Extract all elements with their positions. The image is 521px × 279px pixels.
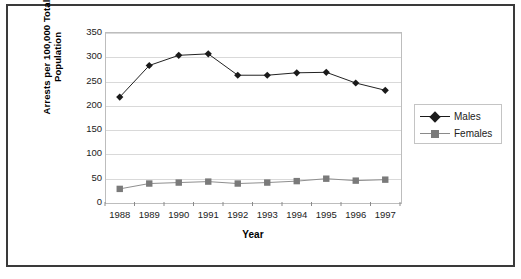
diamond-marker-icon [429,111,440,122]
chart-legend: Males Females [414,104,502,144]
figure-caption [8,269,513,279]
legend-item-males[interactable]: Males [420,109,481,124]
square-marker-icon [431,130,439,138]
legend-label-males: Males [454,111,481,122]
x-axis-title: Year [103,229,403,240]
figure-frame: Arrests per 100,000 Total Population 350… [6,4,515,267]
legend-swatch-males [420,111,450,123]
chart-canvas: Arrests per 100,000 Total Population 350… [8,6,513,265]
legend-item-females[interactable]: Females [420,126,492,141]
legend-swatch-females [420,128,450,140]
x-tick-label: 1997 [368,210,402,220]
legend-label-females: Females [454,128,492,139]
